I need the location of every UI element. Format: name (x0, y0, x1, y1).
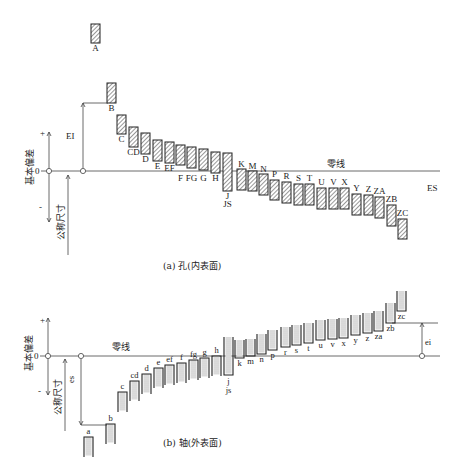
panel-a-ei-label: EI (66, 131, 75, 141)
hole-box-label: FG (186, 173, 198, 183)
shaft-box-v: v (328, 319, 337, 349)
shaft-box-b: b (106, 413, 115, 444)
hole-box-label: ZB (386, 194, 398, 204)
hole-box-z: Z (364, 184, 373, 215)
shaft-box-label: ef (166, 354, 173, 364)
panel-b-shaft: + 0 - es ei 零线 基本偏差 公称尺寸 abccddeefffgghj… (23, 291, 440, 457)
panel-b-minus-label: - (38, 386, 41, 396)
hole-box-a: A (91, 24, 100, 53)
shaft-box-x: x (339, 318, 348, 348)
panel-b-es-origin-marker (78, 353, 83, 358)
hole-box-t: T (305, 173, 314, 205)
shaft-box-fg: fg (189, 349, 198, 380)
shaft-box-label: cd (130, 370, 139, 380)
panel-a-y-axis-label: 基本偏差 (24, 149, 35, 185)
shaft-box-t: t (304, 323, 313, 353)
hole-box-label: R (283, 171, 289, 181)
hole-box-y: Y (352, 183, 361, 215)
shaft-box-label: b (108, 413, 112, 423)
shaft-box-label: zb (386, 323, 394, 333)
panel-a-caption: (a) 孔(内表面) (163, 260, 221, 271)
shaft-box-label: zc (398, 311, 406, 321)
shaft-box-label: p (270, 350, 274, 360)
shaft-box-label: t (307, 343, 310, 353)
shaft-box-f: f (177, 352, 186, 383)
hole-box-label: A (92, 43, 99, 53)
shaft-box-label: y (353, 335, 358, 345)
shaft-box-n: n (257, 334, 266, 364)
hole-box-label: B (108, 103, 114, 113)
panel-b-nominal-size-label: 公称尺寸 (52, 379, 63, 415)
shaft-box-sublabel: js (225, 385, 232, 395)
shaft-box-label: u (318, 340, 323, 350)
hole-box-d: D (141, 133, 150, 164)
panel-a-zero-label: 0 (35, 166, 40, 176)
hole-box-label: Y (353, 183, 360, 193)
hole-box-h: H (211, 152, 220, 183)
hole-box-f: F (176, 145, 185, 183)
hole-box-label: V (330, 177, 337, 187)
shaft-box-za: za (374, 311, 383, 341)
hole-box-c: C (117, 115, 126, 144)
shaft-box-zb: zb (386, 303, 395, 333)
hole-box-label: S (296, 173, 301, 183)
fundamental-deviation-diagram: + 0 - EI ES 零线 基本偏差 公称尺寸 ABCCDDEEFFFGGHJ… (0, 0, 459, 474)
hole-box-sublabel: JS (223, 199, 232, 209)
shaft-box-a: a (84, 426, 93, 457)
panel-b-ei-label: ei (425, 337, 432, 347)
hole-box-j: JJS (223, 153, 232, 209)
hole-box-label: E (155, 161, 161, 171)
shaft-box-zc: zc (397, 291, 406, 321)
shaft-box-label: h (214, 345, 219, 355)
hole-box-r: R (282, 171, 291, 203)
shaft-box-m: m (246, 339, 255, 366)
shaft-box-cd: cd (130, 370, 139, 401)
shaft-box-p: p (268, 330, 277, 360)
hole-box-label: U (318, 177, 325, 187)
shaft-box-label: g (202, 347, 207, 357)
shaft-box-r: r (281, 327, 290, 357)
shaft-box-e: e (154, 357, 163, 388)
hole-box-g: G (199, 149, 208, 183)
hole-box-label: M (248, 161, 256, 171)
hole-box-zc: ZC (397, 208, 409, 239)
hole-box-label: K (238, 159, 245, 169)
shaft-box-s: s (292, 325, 301, 355)
shaft-box-label: m (247, 356, 254, 366)
shaft-box-label: x (341, 338, 346, 348)
shaft-box-label: n (259, 354, 264, 364)
shaft-box-g: g (200, 347, 209, 378)
shaft-box-u: u (316, 320, 325, 350)
shaft-box-label: c (121, 381, 125, 391)
panel-b-origin-marker (45, 353, 50, 358)
hole-box-label: N (260, 164, 267, 174)
panel-b-es-label: es (66, 376, 76, 383)
panel-b-zero-line-label: 零线 (112, 341, 130, 352)
hole-box-b: B (107, 83, 116, 113)
hole-box-m: M (248, 161, 257, 191)
panel-b-deviation-boxes: abccddeefffgghjjskmnprstuvxyzzazbzc (84, 291, 406, 457)
shaft-box-y: y (351, 315, 360, 345)
hole-box-e: E (153, 140, 162, 171)
hole-box-label: ZC (397, 208, 409, 218)
panel-b-caption: (b) 轴(外表面) (163, 437, 222, 448)
shaft-box-d: d (142, 363, 151, 394)
shaft-box-label: a (87, 426, 91, 436)
hole-box-label: ZA (374, 186, 386, 196)
panel-b-y-axis-label: 基本偏差 (23, 335, 34, 371)
panel-a-plus-label: + (40, 128, 45, 138)
hole-box-label: F (178, 173, 183, 183)
shaft-box-label: r (284, 347, 287, 357)
panel-a-origin-marker (46, 168, 51, 173)
hole-box-label: X (341, 177, 348, 187)
hole-box-label: D (142, 154, 149, 164)
shaft-box-label: fg (190, 349, 198, 359)
hole-box-x: X (340, 177, 349, 209)
hole-box-ef: EF (164, 142, 175, 173)
hole-box-n: N (259, 164, 268, 195)
shaft-box-label: z (366, 333, 370, 343)
hole-box-zb: ZB (386, 194, 398, 226)
hole-box-label: H (212, 173, 219, 183)
shaft-box-c: c (118, 381, 127, 412)
panel-a-zero-line-label: 零线 (327, 158, 345, 169)
